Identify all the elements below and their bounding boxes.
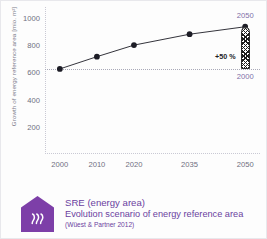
x-tick-label: 2050 (237, 160, 254, 169)
y-tick-label: 400 (27, 95, 40, 104)
x-tick-label: 2010 (88, 160, 105, 169)
bar-top-year-label: 2050 (237, 11, 254, 20)
y-tick-label: 800 (27, 41, 40, 50)
series-markers (57, 24, 248, 72)
growth-bar (241, 27, 250, 69)
series-marker (131, 42, 137, 48)
figure-panel: Growth of energy reference area [mio. m²… (0, 0, 267, 239)
y-tick-label: 600 (27, 68, 40, 77)
bar-bottom-year-label: 2000 (237, 72, 254, 81)
caption-title: SRE (energy area) (65, 197, 243, 209)
house-waves-icon (21, 196, 54, 232)
caption-text: SRE (energy area) Evolution scenario of … (65, 195, 243, 229)
x-tick-label: 2035 (181, 160, 198, 169)
series-marker (94, 54, 100, 60)
y-axis-title: Growth of energy reference area [mio. m²… (10, 0, 17, 142)
series-line-and-markers (45, 7, 260, 154)
y-tick-label: 1000 (23, 13, 40, 22)
caption-block: SRE (energy area) Evolution scenario of … (1, 187, 267, 239)
growth-delta-label: +50 % (215, 52, 236, 61)
series-marker (57, 66, 63, 72)
series-marker (187, 31, 193, 37)
chart-area: Growth of energy reference area [mio. m²… (1, 1, 267, 183)
caption-subtitle: Evolution scenario of energy reference a… (65, 209, 243, 220)
x-tick-label: 2020 (126, 160, 143, 169)
x-tick-label: 2000 (51, 160, 68, 169)
y-tick-label: 200 (27, 122, 40, 131)
series-polyline (60, 27, 245, 69)
plot-area: 1000800600400200 20002010202020352050 20… (45, 7, 260, 154)
caption-source: (Wüest & Partner 2012) (65, 221, 243, 229)
